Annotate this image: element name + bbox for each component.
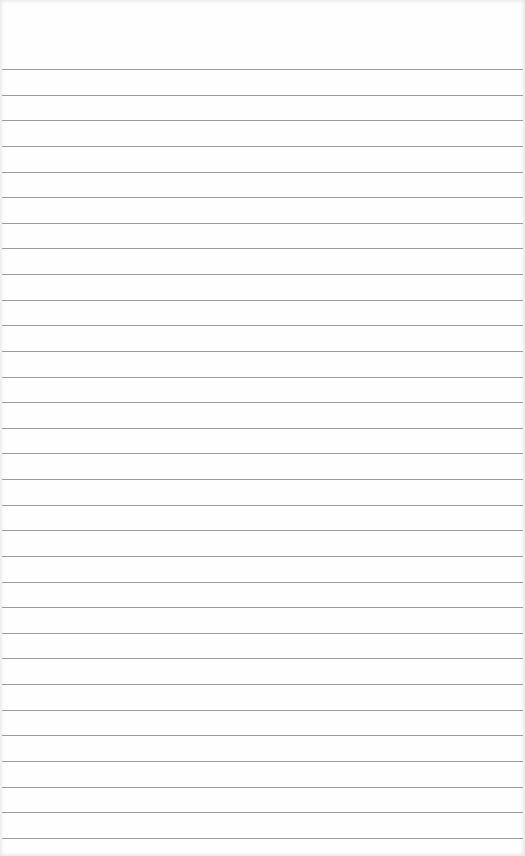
ruled-line	[2, 556, 523, 557]
ruled-line	[2, 787, 523, 788]
ruled-line	[2, 120, 523, 121]
ruled-line	[2, 248, 523, 249]
ruled-line	[2, 351, 523, 352]
ruled-line	[2, 197, 523, 198]
ruled-line	[2, 453, 523, 454]
ruled-line	[2, 274, 523, 275]
ruled-line	[2, 69, 523, 70]
ruled-line	[2, 582, 523, 583]
ruled-line	[2, 223, 523, 224]
ruled-line	[2, 710, 523, 711]
ruled-line	[2, 325, 523, 326]
ruled-line	[2, 172, 523, 173]
ruled-line	[2, 428, 523, 429]
lined-paper	[0, 0, 525, 856]
ruled-line	[2, 658, 523, 659]
ruled-line	[2, 761, 523, 762]
ruled-line	[2, 377, 523, 378]
ruled-line	[2, 838, 523, 839]
ruled-line	[2, 146, 523, 147]
ruled-line	[2, 530, 523, 531]
ruled-line	[2, 684, 523, 685]
ruled-line	[2, 479, 523, 480]
ruled-line	[2, 607, 523, 608]
ruled-line	[2, 812, 523, 813]
ruled-line	[2, 735, 523, 736]
ruled-line	[2, 402, 523, 403]
ruled-line	[2, 95, 523, 96]
ruled-line	[2, 300, 523, 301]
ruled-line	[2, 505, 523, 506]
ruled-line	[2, 633, 523, 634]
